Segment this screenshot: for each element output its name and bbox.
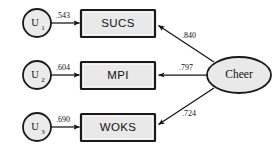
coef-u2-mpi: .604 xyxy=(56,63,70,72)
u3-label: U xyxy=(31,121,39,132)
coef-cheer-woks: .724 xyxy=(182,109,196,118)
coef-cheer-sucs: .840 xyxy=(182,31,196,40)
coef-cheer-mpi: .797 xyxy=(179,63,193,72)
node-u2[interactable]: U 2 xyxy=(23,61,51,89)
u2-label: U xyxy=(31,69,39,80)
u1-subscript: 1 xyxy=(41,24,45,32)
woks-label: WOKS xyxy=(100,121,137,133)
u2-subscript: 2 xyxy=(41,76,45,84)
mpi-label: MPI xyxy=(107,69,129,81)
node-sucs[interactable]: SUCS xyxy=(81,10,155,37)
node-u1[interactable]: U 1 xyxy=(23,9,51,37)
path-cheer-to-woks xyxy=(159,88,215,125)
node-u3[interactable]: U 3 xyxy=(23,113,51,141)
sem-path-diagram: SUCS MPI WOKS U 1 U 2 U xyxy=(0,0,276,150)
diagram-canvas: SUCS MPI WOKS U 1 U 2 U xyxy=(0,0,276,150)
u1-label: U xyxy=(31,17,39,28)
node-cheer[interactable]: Cheer xyxy=(207,57,271,93)
coef-u1-sucs: .543 xyxy=(56,11,70,20)
coef-u3-woks: .690 xyxy=(56,115,70,124)
node-mpi[interactable]: MPI xyxy=(81,62,155,89)
cheer-label: Cheer xyxy=(225,68,253,80)
sucs-label: SUCS xyxy=(101,17,135,29)
node-woks[interactable]: WOKS xyxy=(81,114,155,141)
u3-subscript: 3 xyxy=(41,128,45,136)
